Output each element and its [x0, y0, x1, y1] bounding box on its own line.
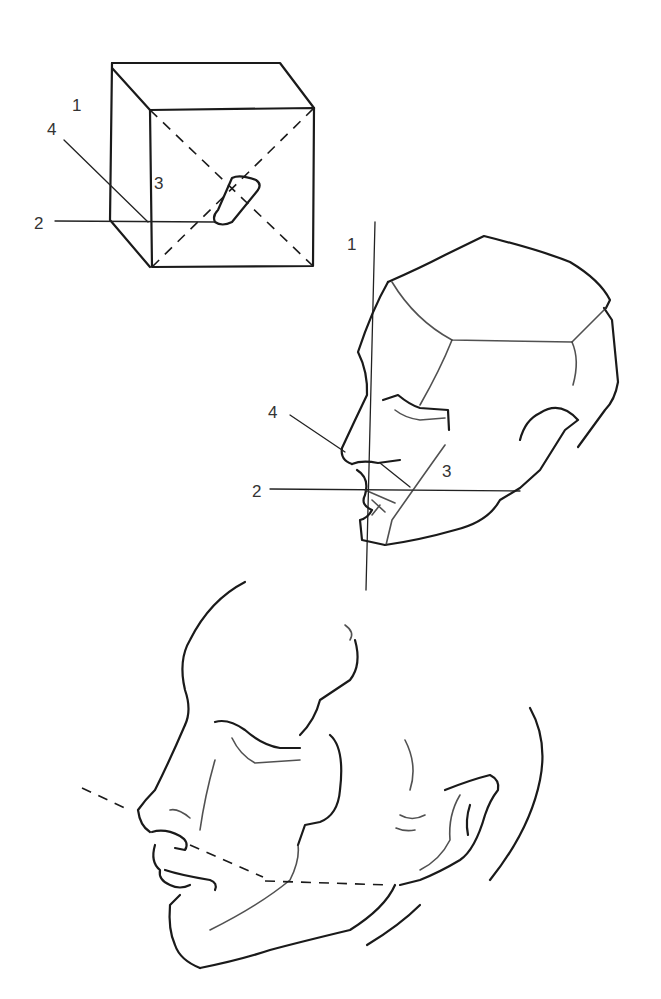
planar-head-diagram: 1 2 3 4 — [252, 222, 618, 590]
cube-label-1: 1 — [72, 96, 81, 115]
head-label-2: 2 — [252, 482, 261, 501]
cube-label-2: 2 — [34, 214, 43, 233]
cube-label-4: 4 — [47, 120, 56, 139]
sketched-head — [82, 582, 542, 968]
cube-label-3: 3 — [154, 174, 163, 193]
head-label-4: 4 — [268, 403, 277, 422]
cube-diagram: 1 2 3 4 — [34, 63, 314, 267]
illustration-canvas: 1 2 3 4 1 2 3 4 — [0, 0, 661, 999]
head-label-1: 1 — [347, 235, 356, 254]
head-label-3: 3 — [442, 462, 451, 481]
